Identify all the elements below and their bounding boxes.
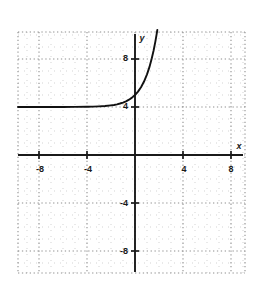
major-gridlines [18,32,245,273]
xtick-label-neg8: -8 [36,164,44,174]
ytick-label-4: 4 [123,101,128,111]
xtick-label-4: 4 [181,164,186,174]
axes [18,34,243,272]
minor-gridlines [18,32,245,273]
xtick-label-neg4: -4 [84,164,92,174]
ytick-label-neg4: -4 [120,198,128,208]
ytick-label-8: 8 [123,53,128,63]
coordinate-plane: -8 -4 4 8 8 4 -4 -8 x y [0,0,259,295]
ytick-label-neg8: -8 [120,246,128,256]
y-axis-label: y [138,33,145,43]
x-axis-label: x [235,141,242,151]
graph-figure: -8 -4 4 8 8 4 -4 -8 x y [0,0,259,295]
xtick-label-8: 8 [228,164,233,174]
